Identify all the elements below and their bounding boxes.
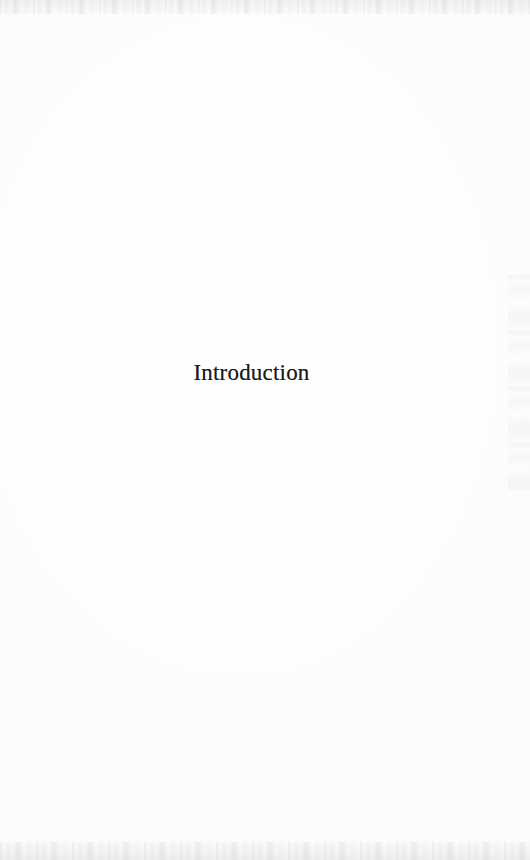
scan-artifact-right-edge: [508, 275, 530, 490]
scan-artifact-bottom-edge: [0, 842, 530, 860]
scan-artifact-top-edge: [0, 0, 530, 14]
paper-background: [0, 0, 530, 860]
section-title: Introduction: [193, 358, 309, 388]
section-title-block: Introduction: [0, 358, 503, 388]
scanned-page: Introduction: [0, 0, 530, 860]
